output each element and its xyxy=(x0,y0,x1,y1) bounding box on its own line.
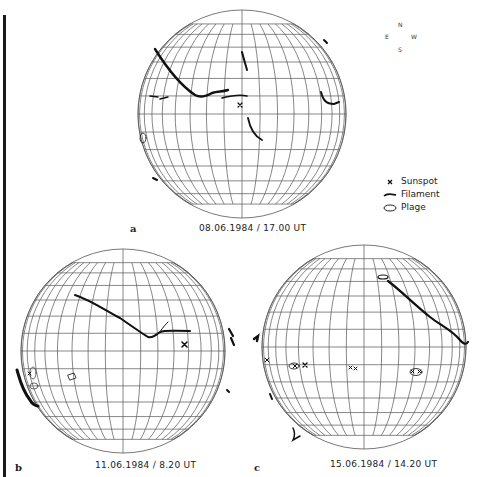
plage-icon xyxy=(378,275,388,279)
sunspot-icon xyxy=(265,358,269,362)
panel-letter-a: a xyxy=(130,223,137,234)
legend-item-plage: Plage xyxy=(383,201,440,214)
plage-ellipse-icon xyxy=(383,203,397,213)
sunspot-cross-icon xyxy=(383,177,397,187)
sunspot-icon xyxy=(182,342,187,347)
filament-icon xyxy=(324,40,327,43)
plage-icon xyxy=(68,373,76,380)
features-b xyxy=(17,295,234,406)
legend-item-sunspot: Sunspot xyxy=(383,175,440,188)
solar-disk-b xyxy=(21,249,225,453)
filament-icon xyxy=(242,52,247,70)
filament-icon xyxy=(227,390,229,392)
filament-icon xyxy=(293,428,300,440)
panel-letter-c: c xyxy=(254,462,260,473)
sunspot-icon xyxy=(238,103,242,107)
solar-disk-figure xyxy=(0,0,479,477)
panel-letter-b: b xyxy=(15,462,22,473)
plage-icon xyxy=(289,363,299,369)
panel-caption-b: 11.06.1984 / 8.20 UT xyxy=(95,460,196,470)
compass-east: E xyxy=(385,33,389,40)
panel-caption-a: 08.06.1984 / 17.00 UT xyxy=(199,223,306,233)
filament-line-icon xyxy=(383,190,397,200)
compass-north: N xyxy=(398,21,403,28)
legend: Sunspot Filament Plage xyxy=(383,175,440,214)
filament-icon xyxy=(270,394,272,399)
compass-west: W xyxy=(411,33,417,40)
sunspot-icon xyxy=(349,366,357,370)
sunspot-icon xyxy=(411,370,421,373)
legend-item-filament: Filament xyxy=(383,188,440,201)
filament-icon xyxy=(229,329,234,345)
solar-disk-c xyxy=(262,245,466,449)
filament-icon xyxy=(254,336,258,341)
filament-icon xyxy=(17,370,38,406)
solar-disk-a xyxy=(138,10,346,218)
compass-south: S xyxy=(398,46,402,53)
panel-caption-c: 15.06.1984 / 14.20 UT xyxy=(330,459,437,469)
filament-icon xyxy=(153,178,157,180)
